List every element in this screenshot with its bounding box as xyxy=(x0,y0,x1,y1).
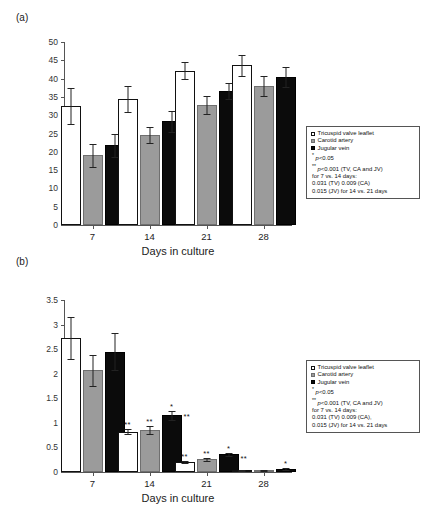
error-bar-stem xyxy=(241,55,242,75)
x-axis-title: Days in culture xyxy=(64,492,292,504)
error-bar-cap-top xyxy=(146,127,153,128)
error-bar-cap-top xyxy=(168,411,175,412)
significance-marker-jv-day-21: * xyxy=(218,444,240,453)
y-tick xyxy=(61,225,64,226)
legend-note: 0.015 (JV) for 14 vs. 21 days xyxy=(311,188,415,195)
legend-note: * p<0.05 xyxy=(311,386,415,396)
error-bar-cap-bottom xyxy=(111,370,118,371)
y-tick xyxy=(61,79,64,80)
error-bar-stem xyxy=(263,76,264,96)
panel-a-plot-area: 051015202530354045507142128Days in cultu… xyxy=(64,42,292,225)
panel-a: (a) Collagen (ng) 0510152025303540455071… xyxy=(0,0,433,256)
y-tick-label: 3 xyxy=(30,320,58,330)
error-bar-stem xyxy=(92,144,93,167)
legend-note: 0.031 (TV) 0.009 (CA) xyxy=(311,180,415,187)
error-bar-ca-day-7 xyxy=(83,355,103,386)
x-tick-label-day-21: 21 xyxy=(187,231,227,242)
y-tick-label: 50 xyxy=(30,37,58,47)
error-bar-jv-day-28 xyxy=(276,468,296,470)
y-tick-label: 20 xyxy=(30,147,58,157)
bar-ca-day-21 xyxy=(197,105,217,225)
y-tick-label: 0.5 xyxy=(30,442,58,452)
error-bar-ca-day-14 xyxy=(140,127,160,144)
error-bar-ca-day-14 xyxy=(140,426,160,434)
error-bar-cap-bottom xyxy=(146,143,153,144)
bar-jv-day-28 xyxy=(276,77,296,225)
error-bar-stem xyxy=(171,411,172,421)
significance-marker-jv-day-28: * xyxy=(275,459,297,468)
x-tick xyxy=(93,226,94,229)
error-bar-tv-day-28 xyxy=(232,470,252,471)
error-bar-cap-bottom xyxy=(124,434,131,435)
legend-swatch-tv-icon xyxy=(311,366,315,370)
error-bar-stem xyxy=(92,355,93,386)
x-tick xyxy=(150,226,151,229)
error-bar-stem xyxy=(228,83,229,100)
legend-item-jv: Jugular vein xyxy=(311,145,415,152)
error-bar-cap-top xyxy=(203,458,210,459)
error-bar-tv-day-7 xyxy=(61,88,81,125)
legend-note: 0.015 (JV) for 14 vs. 21 days xyxy=(311,422,415,429)
x-tick-label-day-14: 14 xyxy=(130,478,170,489)
panel-a-legend: Tricuspid valve leafletCarotid arteryJug… xyxy=(306,126,420,199)
significance-annotation-jv-day-21: ** xyxy=(241,454,247,463)
error-bar-stem xyxy=(285,67,286,87)
error-bar-cap-bottom xyxy=(203,461,210,462)
legend-item-tv: Tricuspid valve leaflet xyxy=(311,130,415,137)
legend-swatch-tv-icon xyxy=(311,132,315,136)
legend-swatch-jv-icon xyxy=(311,380,315,384)
error-bar-tv-day-14 xyxy=(118,429,138,434)
error-bar-cap-bottom xyxy=(181,79,188,80)
y-tick-label: 2.5 xyxy=(30,344,58,354)
error-bar-ca-day-28 xyxy=(254,470,274,471)
bar-tv-day-14 xyxy=(118,432,138,472)
error-bar-cap-top xyxy=(124,429,131,430)
error-bar-cap-top xyxy=(111,333,118,334)
error-bar-cap-bottom xyxy=(67,359,74,360)
bar-ca-day-14 xyxy=(140,135,160,225)
panel-b-label: (b) xyxy=(16,256,28,267)
error-bar-cap-bottom xyxy=(260,96,267,97)
legend-note: for 7 vs. 14 days: xyxy=(311,173,415,180)
error-bar-stem xyxy=(149,127,150,144)
error-bar-cap-top xyxy=(181,461,188,462)
x-tick xyxy=(150,473,151,476)
bar-ca-day-14 xyxy=(140,430,160,472)
error-bar-cap-top xyxy=(225,453,232,454)
legend-swatch-ca-icon xyxy=(311,139,315,143)
y-tick-label: 0 xyxy=(30,220,58,230)
error-bar-cap-bottom xyxy=(282,470,289,471)
y-tick xyxy=(61,472,64,473)
legend-item-jv: Jugular vein xyxy=(311,379,415,386)
x-tick-label-day-7: 7 xyxy=(73,231,113,242)
error-bar-tv-day-7 xyxy=(61,317,81,359)
x-axis-line xyxy=(64,472,292,473)
error-bar-cap-top xyxy=(67,88,74,89)
error-bar-cap-top xyxy=(181,62,188,63)
error-bar-stem xyxy=(70,317,71,359)
y-tick-label: 25 xyxy=(30,129,58,139)
y-tick-label: 30 xyxy=(30,110,58,120)
significance-annotation-jv-day-14: ** xyxy=(184,412,190,421)
error-bar-tv-day-14 xyxy=(118,86,138,112)
error-bar-jv-day-21 xyxy=(219,453,239,456)
significance-marker-jv-day-14: * xyxy=(161,402,183,411)
error-bar-stem xyxy=(206,96,207,114)
legend-note: * p<0.05 xyxy=(311,152,415,162)
significance-marker-ca-day-14: ** xyxy=(139,417,161,426)
error-bar-cap-top xyxy=(282,468,289,469)
error-bar-stem xyxy=(171,111,172,131)
error-bar-tv-day-21 xyxy=(175,461,195,463)
error-bar-ca-day-28 xyxy=(254,76,274,96)
y-tick xyxy=(61,42,64,43)
legend-item-ca: Carotid artery xyxy=(311,371,415,378)
panel-b: (b) Collagen (ng/cell) 00.511.522.533.57… xyxy=(0,256,433,512)
bar-ca-day-28 xyxy=(254,86,274,225)
error-bar-cap-bottom xyxy=(238,76,245,77)
error-bar-tv-day-28 xyxy=(232,55,252,75)
error-bar-cap-bottom xyxy=(89,386,96,387)
x-tick xyxy=(207,226,208,229)
error-bar-cap-bottom xyxy=(124,112,131,113)
legend-item-label: Tricuspid valve leaflet xyxy=(318,130,374,137)
error-bar-cap-top xyxy=(146,426,153,427)
